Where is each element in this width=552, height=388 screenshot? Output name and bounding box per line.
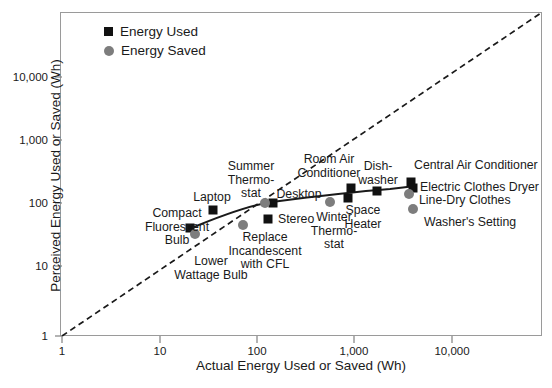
y-tick-100: 100	[2, 197, 48, 209]
label-compact-fluorescent-bulb: Compact Fluorescent Bulb	[145, 207, 209, 248]
label-laptop: Laptop	[193, 191, 231, 205]
x-tick-1: 1	[32, 345, 92, 357]
label-dishwasher: Dish- washer	[358, 160, 398, 187]
y-tick-1000: 1,000	[2, 134, 48, 146]
point-space-heater[interactable]	[344, 194, 353, 203]
point-dishwasher[interactable]	[373, 187, 382, 196]
x-tick-10000: 10,000	[422, 345, 482, 357]
point-laptop[interactable]	[209, 206, 218, 215]
label-replace-incandescent-with-cfl: Replace Incandescent with CFL	[228, 231, 301, 272]
label-washers-setting: Washer's Setting	[424, 216, 516, 230]
label-desktop: Desktop	[276, 188, 321, 202]
legend-item-energy-used: Energy Used	[104, 22, 206, 41]
legend-label-energy-saved: Energy Saved	[121, 43, 206, 58]
point-winter-thermostat[interactable]	[325, 197, 335, 207]
y-tick-10: 10	[2, 260, 48, 272]
x-tick-1000: 1,000	[324, 345, 384, 357]
x-tick-10: 10	[130, 345, 190, 357]
point-room-air-conditioner[interactable]	[347, 184, 356, 193]
label-space-heater: Space Heater	[345, 204, 382, 231]
label-stereo: Stereo	[278, 213, 314, 227]
legend-item-energy-saved: Energy Saved	[104, 41, 206, 60]
label-room-air-conditioner: Room Air Conditioner	[298, 153, 361, 180]
x-tick-100: 100	[227, 345, 287, 357]
label-line-dry-clothes: Line-Dry Clothes	[419, 194, 511, 208]
point-washers-setting[interactable]	[408, 204, 418, 214]
legend: Energy Used Energy Saved	[104, 22, 206, 60]
y-tick-1: 1	[2, 330, 48, 342]
point-stereo[interactable]	[264, 215, 273, 224]
legend-square-marker-icon	[104, 27, 113, 36]
point-replace-incandescent-with-cfl[interactable]	[238, 220, 248, 230]
legend-circle-marker-icon	[104, 46, 114, 56]
y-tick-10000: 10,000	[2, 71, 48, 83]
legend-label-energy-used: Energy Used	[120, 24, 198, 39]
label-summer-thermostat: Summer Thermo- stat	[228, 160, 274, 201]
y-axis-title: Perceived Energy Used or Saved (Wh)	[48, 26, 63, 326]
x-axis-title: Actual Energy Used or Saved (Wh)	[60, 358, 542, 373]
label-central-air-conditioner: Central Air Conditioner	[414, 159, 538, 173]
chart-root: Perceived Energy Used or Saved (Wh) Actu…	[0, 0, 552, 388]
point-line-dry-clothes[interactable]	[404, 189, 414, 199]
